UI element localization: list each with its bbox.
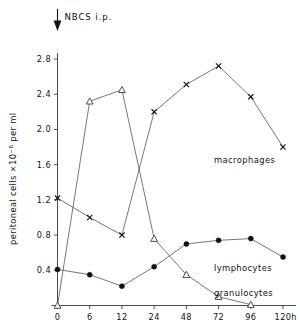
svg-text:peritoneal cells ×10−6 per ml: peritoneal cells ×10−6 per ml: [8, 113, 18, 245]
data-point-cross: [216, 63, 221, 68]
series-label-lymphocytes: lymphocytes: [214, 263, 272, 273]
series-label-granulocytes: granulocytes: [214, 288, 273, 298]
down-arrow-icon: [54, 9, 60, 30]
y-axis-title-exponent: −6: [8, 145, 14, 154]
data-point-cross: [280, 144, 285, 149]
y-axis-title-tail: per ml: [8, 113, 18, 145]
data-point-dot: [184, 241, 189, 246]
y-tick-label: 0.4: [37, 265, 51, 275]
x-axis-ticks: 061224487296120: [55, 306, 292, 322]
y-tick-label: 1.6: [37, 160, 51, 170]
y-tick-label: 1.2: [37, 195, 51, 205]
data-point-dot: [281, 255, 286, 260]
data-point-cross: [119, 232, 124, 237]
y-axis-ticks: 0.40.81.21.62.02.42.8: [37, 54, 58, 275]
series-line: [58, 66, 284, 235]
data-point-dot: [152, 264, 157, 269]
data-point-dot: [87, 272, 92, 277]
data-point-dot: [55, 267, 60, 272]
y-tick-label: 2.0: [37, 124, 51, 134]
treatment-annotation: NBCS i.p.: [54, 9, 112, 30]
y-axis-title: peritoneal cells ×10−6 per ml: [8, 113, 18, 245]
x-tick-label: 12: [116, 312, 127, 322]
chart-figure: peritoneal cells ×10−6 per ml 0.40.81.21…: [0, 0, 300, 331]
line-chart: peritoneal cells ×10−6 per ml 0.40.81.21…: [0, 0, 300, 331]
series-macrophages: [55, 63, 286, 237]
x-tick-label: 0: [55, 312, 61, 322]
y-axis-title-main: peritoneal cells ×10: [8, 154, 18, 245]
data-point-dot: [216, 238, 221, 243]
data-point-triangle: [86, 98, 93, 104]
series-line: [58, 90, 251, 306]
x-tick-label: 96: [245, 312, 256, 322]
series-granulocytes: [54, 86, 254, 308]
data-point-cross: [184, 82, 189, 87]
series-label-macrophages: macrophages: [214, 155, 275, 165]
y-tick-label: 0.8: [37, 230, 51, 240]
x-tick-label: 72: [213, 312, 224, 322]
treatment-annotation-label: NBCS i.p.: [65, 12, 113, 22]
data-point-dot: [119, 284, 124, 289]
data-point-dot: [248, 236, 253, 241]
x-tick-label: 120: [275, 312, 292, 322]
data-point-cross: [152, 109, 157, 114]
data-point-triangle: [119, 86, 126, 92]
x-tick-label: 24: [149, 312, 160, 322]
x-tick-label: 6: [87, 312, 93, 322]
x-axis-unit: h: [291, 312, 297, 322]
y-tick-label: 2.8: [37, 54, 51, 64]
data-point-cross: [87, 215, 92, 220]
x-tick-label: 48: [181, 312, 192, 322]
data-point-cross: [248, 94, 253, 99]
y-tick-label: 2.4: [37, 89, 51, 99]
data-point-triangle: [151, 235, 158, 241]
